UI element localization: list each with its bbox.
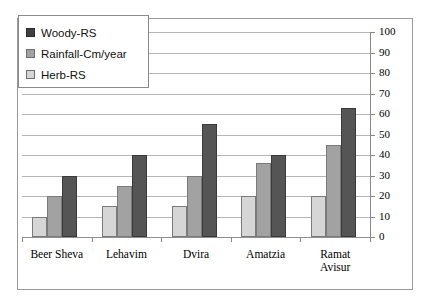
category-label: Amatzia [231, 248, 301, 261]
legend-item-rainfall-cm-year: Rainfall-Cm/year [26, 43, 148, 64]
value-tick-label-50: 50 [379, 129, 390, 140]
bar [32, 217, 47, 238]
legend-item-woody-rs: Woody-RS [26, 22, 148, 43]
legend-swatch-icon-woody-rs [26, 28, 35, 37]
legend-label-rainfall-cm-year: Rainfall-Cm/year [41, 48, 127, 60]
category-label: Ramat Avisur [300, 248, 370, 274]
bar [102, 206, 117, 237]
value-tick-label-60: 60 [379, 108, 390, 119]
legend-swatch-icon-herb-rs [26, 70, 35, 79]
bar [132, 155, 147, 237]
value-tick-90 [370, 53, 375, 54]
value-tick-40 [370, 155, 375, 156]
value-tick-label-80: 80 [379, 67, 390, 78]
category-tick [161, 237, 162, 242]
category-label: Dvira [161, 248, 231, 261]
category-label: Beer Sheva [22, 248, 92, 261]
bar-group [172, 32, 217, 237]
value-tick-30 [370, 176, 375, 177]
bar-chart: 1009080706050403020100 Beer ShevaLehavim… [0, 0, 431, 306]
value-tick-label-10: 10 [379, 211, 390, 222]
category-tick [22, 237, 23, 242]
bar [326, 145, 341, 237]
category-tick [300, 237, 301, 242]
bar [256, 163, 271, 237]
value-tick-80 [370, 73, 375, 74]
value-tick-50 [370, 135, 375, 136]
bar [311, 196, 326, 237]
value-tick-label-30: 30 [379, 170, 390, 181]
bar [341, 108, 356, 237]
category-tick [92, 237, 93, 242]
bar [187, 176, 202, 238]
bar [117, 186, 132, 237]
value-tick-label-0: 0 [379, 231, 385, 242]
bar [241, 196, 256, 237]
bar [62, 176, 77, 238]
bar [202, 124, 217, 237]
value-tick-label-20: 20 [379, 190, 390, 201]
bar [172, 206, 187, 237]
value-tick-20 [370, 196, 375, 197]
value-tick-label-70: 70 [379, 88, 390, 99]
legend-item-herb-rs: Herb-RS [26, 64, 148, 85]
value-tick-label-40: 40 [379, 149, 390, 160]
value-tick-label-90: 90 [379, 47, 390, 58]
gridline-0 [22, 237, 370, 238]
bar-group [311, 32, 356, 237]
category-label: Lehavim [92, 248, 162, 261]
category-tick [231, 237, 232, 242]
bar [47, 196, 62, 237]
bar-group [241, 32, 286, 237]
legend-label-herb-rs: Herb-RS [41, 69, 86, 81]
chart-legend: Woody-RS Rainfall-Cm/year Herb-RS [18, 15, 149, 88]
value-tick-10 [370, 217, 375, 218]
value-tick-label-100: 100 [379, 26, 396, 37]
value-tick-60 [370, 114, 375, 115]
value-tick-70 [370, 94, 375, 95]
legend-swatch-icon-rainfall-cm-year [26, 49, 35, 58]
value-tick-100 [370, 32, 375, 33]
bar [271, 155, 286, 237]
legend-label-woody-rs: Woody-RS [41, 27, 96, 39]
category-tick [370, 237, 371, 242]
